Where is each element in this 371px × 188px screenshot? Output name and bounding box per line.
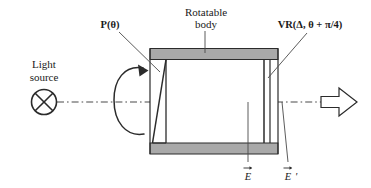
optical-diagram: Light source P(θ) Rotatable body VR(Δ, θ… — [0, 0, 371, 188]
input-field-label: E — [244, 166, 253, 182]
rotatable-body-shell — [150, 49, 278, 155]
light-source-label-line1: Light — [32, 58, 56, 70]
input-field-symbol: E — [244, 171, 252, 182]
output-field-symbol: E — [284, 171, 292, 182]
output-field-label: E ' — [284, 166, 299, 182]
light-source-label-line2: source — [30, 71, 59, 83]
light-source-icon — [32, 90, 57, 115]
polarizer-label: P(θ) — [101, 19, 120, 31]
variable-retarder-label: VR(Δ, θ + π/4) — [278, 19, 343, 31]
output-beam-arrow-icon — [321, 88, 357, 116]
rotatable-body-label-line2: body — [195, 18, 218, 30]
rotation-arrow-icon — [114, 65, 149, 135]
output-field-prime: ' — [295, 171, 298, 182]
figure-container: Light source P(θ) Rotatable body VR(Δ, θ… — [0, 0, 371, 188]
rotatable-body-label-line1: Rotatable — [185, 6, 227, 18]
